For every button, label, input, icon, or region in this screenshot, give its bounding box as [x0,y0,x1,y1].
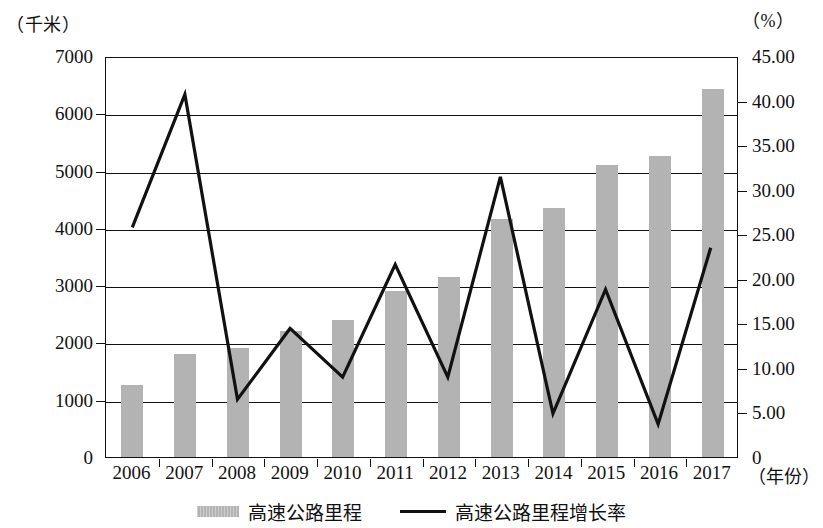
x-tick-2009: 2009 [271,462,309,484]
x-tickmark [423,459,424,467]
left-axis-unit-label: （千米） [6,10,80,36]
x-tick-2017: 2017 [693,462,731,484]
left-tickmark [96,172,105,173]
x-tickmark [317,459,318,467]
left-tick-3000: 3000 [0,275,93,297]
right-tick-20.00: 20.00 [752,269,795,291]
legend-label: 高速公路里程增长率 [455,498,626,525]
right-tick-30.00: 30.00 [752,180,795,202]
right-tick-5.00: 5.00 [752,402,785,424]
left-tick-5000: 5000 [0,161,93,183]
right-tick-35.00: 35.00 [752,135,795,157]
right-tick-15.00: 15.00 [752,313,795,335]
expressway-mileage-chart: （千米） （%） 01000200030004000500060007000 0… [0,0,823,528]
right-axis-unit-label: （%） [742,6,795,32]
right-tick-10.00: 10.00 [752,358,795,380]
x-tick-2013: 2013 [482,462,520,484]
left-tick-1000: 1000 [0,390,93,412]
x-tickmark [634,459,635,467]
x-tickmark [475,459,476,467]
growth-rate-polyline [132,94,710,424]
x-tickmark [212,459,213,467]
x-tickmark [686,459,687,467]
right-tickmark [738,235,747,236]
chart-legend: 高速公路里程高速公路里程增长率 [0,498,823,525]
left-tickmark [96,286,105,287]
left-tickmark [96,401,105,402]
line-series [106,58,737,457]
x-tick-2011: 2011 [376,462,413,484]
x-tickmark [370,459,371,467]
left-tickmark [96,229,105,230]
legend-line-swatch-icon [400,510,446,513]
x-tick-2014: 2014 [534,462,572,484]
left-tick-7000: 7000 [0,46,93,68]
x-tick-2008: 2008 [218,462,256,484]
legend-item-1: 高速公路里程 [197,498,362,525]
right-tick-25.00: 25.00 [752,224,795,246]
left-tickmark [96,114,105,115]
plot-area [105,57,738,458]
right-tickmark [738,102,747,103]
right-tickmark [738,280,747,281]
right-tick-40.00: 40.00 [752,91,795,113]
x-tickmark [528,459,529,467]
x-tick-2006: 2006 [112,462,150,484]
right-tickmark [738,413,747,414]
legend-bar-swatch-icon [197,506,239,517]
x-axis-caption: （年份） [748,462,820,488]
x-tick-2016: 2016 [640,462,678,484]
legend-label: 高速公路里程 [248,498,362,525]
left-tickmark [96,343,105,344]
x-tick-2015: 2015 [587,462,625,484]
x-tick-2012: 2012 [429,462,467,484]
right-tickmark [738,146,747,147]
x-tickmark [159,459,160,467]
x-tick-2007: 2007 [165,462,203,484]
right-tick-45.00: 45.00 [752,46,795,68]
x-tickmark [264,459,265,467]
legend-item-2: 高速公路里程增长率 [400,498,626,525]
x-tickmark [581,459,582,467]
left-tick-6000: 6000 [0,103,93,125]
left-tick-2000: 2000 [0,332,93,354]
left-tick-4000: 4000 [0,218,93,240]
right-tickmark [738,369,747,370]
left-tick-0: 0 [0,447,93,469]
x-tick-2010: 2010 [323,462,361,484]
right-tickmark [738,324,747,325]
right-tickmark [738,191,747,192]
